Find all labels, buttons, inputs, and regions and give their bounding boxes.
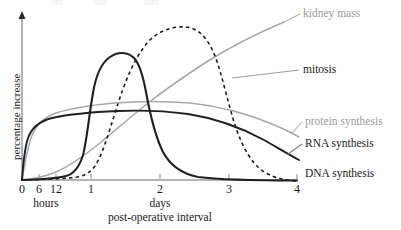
series-path-mitosis	[22, 27, 297, 181]
series-label-rna-synthesis: RNA synthesis	[305, 138, 374, 150]
series-label-dna-synthesis: DNA synthesis	[305, 168, 374, 180]
series-label-protein-synthesis: protein synthesis	[305, 116, 383, 128]
y-axis-arrow-icon	[19, 11, 26, 19]
x-tick-label-4d: 4	[289, 183, 305, 195]
chart-figure: percentage increase 0 6 12 1 2 3 4 hours…	[0, 0, 401, 230]
y-axis-title: percentage increase	[11, 74, 22, 160]
leader-line-rna-synthesis	[288, 144, 302, 154]
leader-line-protein-synthesis	[292, 122, 302, 133]
series-label-kidney-mass: kidney mass	[303, 8, 360, 20]
series-label-mitosis: mitosis	[303, 64, 336, 76]
x-tick-label-6h: 6	[31, 183, 47, 195]
x-tick-label-0: 0	[14, 183, 30, 195]
leader-line-mitosis	[232, 70, 299, 78]
leader-line-kidney-mass	[284, 14, 300, 22]
x-tick-label-12h: 12	[46, 183, 66, 195]
x-tick-label-2d: 2	[152, 183, 168, 195]
x-axis-group-label-hours: hours	[21, 198, 71, 210]
x-axis-group-label-days: days	[136, 198, 184, 210]
x-axis-title: post-operative interval	[85, 212, 235, 224]
x-tick-label-1d: 1	[83, 183, 99, 195]
x-tick-label-3d: 3	[221, 183, 237, 195]
